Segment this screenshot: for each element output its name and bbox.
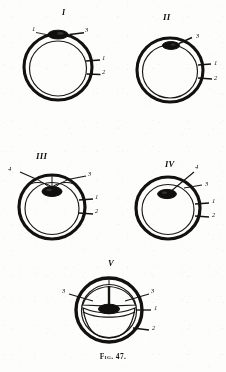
figure-4-roman: IV <box>165 160 175 169</box>
germinal-vesicle-highlight <box>57 32 63 35</box>
figure-3-label-1: 1 <box>95 194 98 201</box>
germinal-vesicle <box>48 30 68 39</box>
leader-line-2 <box>87 74 101 75</box>
outer-membrane <box>24 34 92 100</box>
figure-4-drawing <box>126 162 226 254</box>
leader-line-3 <box>68 176 86 180</box>
figure-2-label-3: 3 <box>196 33 199 40</box>
figure-2-drawing <box>128 26 226 112</box>
figure-2-label-2: 2 <box>214 75 217 82</box>
illustration-plate: I 1 3 1 2 II 3 1 2 <box>0 0 226 372</box>
segmentation-nucleus <box>99 304 120 314</box>
leader-line-2 <box>198 78 212 79</box>
segmentation-nucleus-highlight <box>162 192 167 194</box>
leader-line-1 <box>195 203 209 204</box>
figure-4-label-4: 4 <box>195 164 198 171</box>
inner-membrane <box>143 45 198 98</box>
figure-4-label-2: 2 <box>212 212 215 219</box>
leader-line-1b <box>86 60 100 61</box>
leader-line-3 <box>70 33 85 35</box>
figure-1-label-2: 2 <box>102 69 105 76</box>
segmentation-nucleus <box>42 187 62 197</box>
figure-5-label-1: 1 <box>154 305 157 312</box>
figure-5 <box>63 268 169 356</box>
leader-line-1 <box>79 199 93 200</box>
germinal-vesicle-highlight <box>170 43 175 45</box>
leader-line-4 <box>20 172 36 179</box>
figure-3-label-4: 4 <box>8 166 11 173</box>
figure-1 <box>14 20 114 110</box>
figure-3 <box>8 160 112 252</box>
germinal-vesicle <box>162 42 179 50</box>
figure-caption: Fig. 47. <box>0 353 226 361</box>
figure-3-roman: III <box>36 152 47 161</box>
figure-5-label-2: 2 <box>152 325 155 332</box>
figure-1-label-1b: 1 <box>102 55 105 62</box>
figure-4-label-1: 1 <box>212 198 215 205</box>
figure-2 <box>128 26 226 112</box>
figure-1-roman: I <box>62 9 65 17</box>
inner-membrane <box>30 41 87 96</box>
outer-membrane <box>136 177 200 239</box>
figure-3-label-2: 2 <box>95 208 98 215</box>
figure-3-label-3: 3 <box>88 171 91 178</box>
leader-line-1 <box>198 64 211 65</box>
figure-5-label-3-left: 3 <box>62 288 65 295</box>
figure-1-label-1: 1 <box>32 26 35 33</box>
leader-line-1 <box>36 33 48 35</box>
figure-5-drawing <box>63 268 169 356</box>
figure-1-drawing <box>14 20 114 110</box>
figure-5-roman: V <box>108 259 114 268</box>
segmentation-nucleus-highlight <box>46 189 52 191</box>
figure-2-roman: II <box>163 13 171 22</box>
leader-line-2 <box>79 213 93 214</box>
figure-5-label-3-right: 3 <box>151 288 154 295</box>
figure-3-drawing <box>8 160 112 252</box>
segmentation-nucleus <box>158 189 177 198</box>
figure-1-label-3: 3 <box>85 27 88 34</box>
figure-2-label-1: 1 <box>214 60 217 67</box>
figure-4 <box>126 162 226 254</box>
figure-4-label-3: 3 <box>205 181 208 188</box>
